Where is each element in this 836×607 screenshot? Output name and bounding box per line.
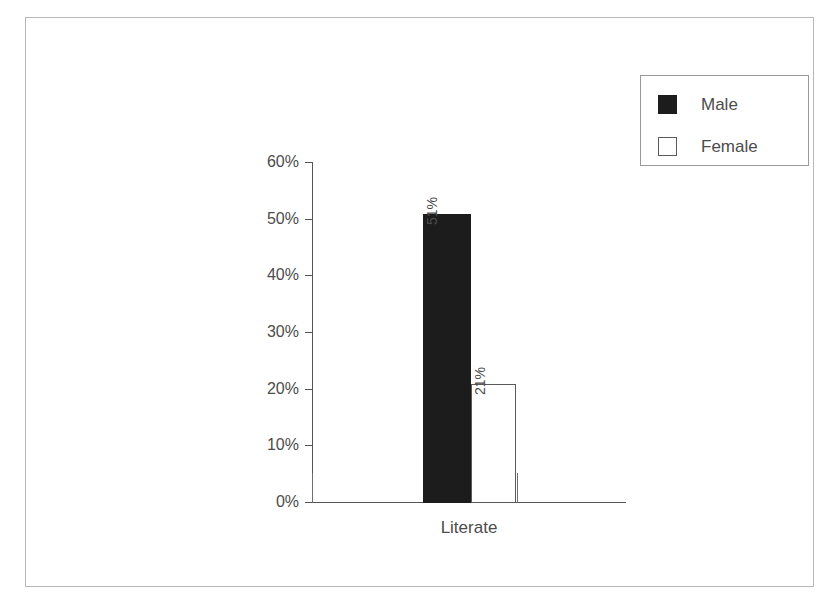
y-tick-label-50: 50%: [215, 210, 299, 228]
y-tick-label-40: 40%: [215, 266, 299, 284]
y-tick-label-30: 30%: [215, 323, 299, 341]
y-tick-mark-20: [305, 389, 312, 390]
legend-item-female[interactable]: Female: [658, 137, 758, 156]
y-tick-label-60: 60%: [215, 153, 299, 171]
chart-legend: Male Female: [640, 75, 809, 166]
y-tick-mark-60: [305, 162, 312, 163]
legend-label-male: Male: [701, 95, 738, 114]
y-tick-label-0: 0%: [215, 493, 299, 511]
chart-screenshot: 60% 50% 40% 30% 20% 10% 0% 51% 21%: [0, 0, 836, 607]
y-tick-label-20: 20%: [215, 380, 299, 398]
bar-male-literate[interactable]: [423, 214, 471, 503]
bar-female-literate[interactable]: [471, 384, 516, 503]
bar-value-label-male: 51%: [424, 197, 440, 225]
filled-square-icon: [658, 95, 677, 114]
x-category-label-literate: Literate: [312, 518, 626, 538]
plot-area: 51% 21%: [312, 163, 626, 503]
legend-label-female: Female: [701, 137, 758, 156]
chart-frame: 60% 50% 40% 30% 20% 10% 0% 51% 21%: [25, 17, 814, 587]
y-tick-mark-0: [305, 502, 312, 503]
hollow-square-icon: [658, 137, 677, 156]
legend-item-male[interactable]: Male: [658, 95, 738, 114]
y-tick-mark-10: [305, 445, 312, 446]
y-tick-label-10: 10%: [215, 436, 299, 454]
bar-value-label-female: 21%: [472, 367, 488, 395]
y-tick-mark-40: [305, 275, 312, 276]
y-tick-mark-30: [305, 332, 312, 333]
y-tick-mark-50: [305, 219, 312, 220]
